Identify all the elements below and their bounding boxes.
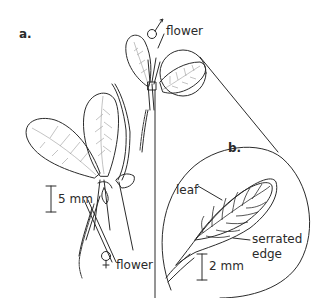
magnified-leaf [162, 147, 310, 298]
male-flower-label: flower [166, 25, 203, 37]
zoom-connector-line [200, 57, 278, 152]
panel-label-a: a. [19, 28, 32, 40]
scale-bar-a [46, 186, 56, 212]
panel-label-b: b. [228, 142, 241, 154]
left-plant [26, 84, 134, 278]
leaf-label: leaf [176, 184, 198, 196]
male-symbol-icon [148, 19, 164, 39]
female-flower-label: flower [116, 259, 153, 271]
plant-diagram: a. b. flower flower leaf serrated edge 5… [0, 0, 327, 298]
scale-bar-b [197, 254, 207, 280]
scale-label-b: 2 mm [209, 260, 244, 272]
scale-label-a: 5 mm [58, 193, 93, 205]
serrated-edge-label-line1: serrated [252, 233, 302, 245]
serrated-edge-label-line2: edge [252, 248, 282, 260]
female-symbol-icon [102, 252, 111, 269]
